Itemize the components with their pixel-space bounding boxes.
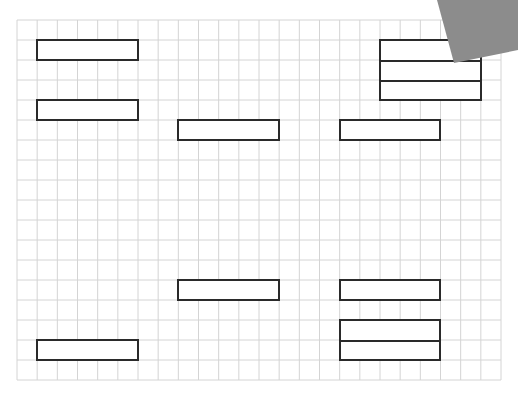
gray-corner-overlay [0,0,518,395]
overlay-shape [437,0,518,63]
